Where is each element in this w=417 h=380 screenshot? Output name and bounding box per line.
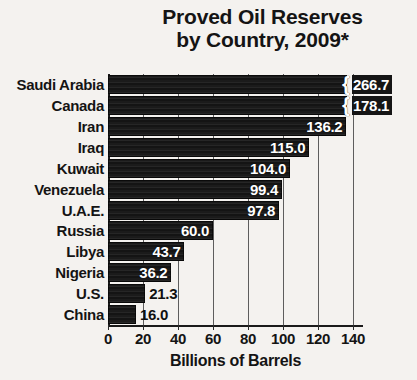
plot-area: {266.7{178.1136.2115.0104.099.497.860.04… [108,74,353,325]
bar-row: 21.3 [108,284,353,303]
category-label: U.S. [0,284,104,303]
bar-value-label: 266.7 [352,75,392,94]
bar-value-label: 104.0 [108,159,286,178]
bar-row: 43.7 [108,242,353,261]
x-tick-label: 20 [135,330,151,347]
bar-value-label: 99.4 [108,180,278,199]
bar-row: 136.2 [108,117,353,136]
bar[interactable] [108,284,145,303]
category-label: U.A.E. [0,201,104,220]
category-label: Russia [0,221,104,240]
x-axis-line [108,325,363,327]
bar-row: 97.8 [108,201,353,220]
bar-row: {178.1 [108,96,353,115]
bar[interactable] [108,75,347,94]
bar-row: 16.0 [108,305,353,324]
category-label: Libya [0,242,104,261]
bar-value-label: 115.0 [108,138,305,157]
x-tick-label: 40 [170,330,186,347]
chart-title-text: Proved Oil Reserves by Country, 2009* [162,5,362,51]
bar-value-label: 136.2 [108,117,342,136]
bar-value-label: 21.3 [149,284,177,303]
category-label: China [0,305,104,324]
bar[interactable] [108,305,136,324]
category-label: Saudi Arabia [0,75,104,94]
x-tick-label: 140 [341,330,365,347]
bar-row: 36.2 [108,263,353,282]
axis-break-icon: { [342,96,350,115]
bar-row: 104.0 [108,159,353,178]
category-label: Canada [0,96,104,115]
category-label: Kuwait [0,159,104,178]
x-tick-label: 80 [240,330,256,347]
category-label: Iran [0,117,104,136]
bar-row: {266.7 [108,75,353,94]
x-tick-label: 100 [271,330,295,347]
bar-value-label: 36.2 [108,263,167,282]
bar-value-label: 60.0 [108,221,209,240]
chart-title: Proved Oil Reserves by Country, 2009* [108,6,417,51]
bar-row: 99.4 [108,180,353,199]
category-label: Venezuela [0,180,104,199]
bar-value-label: 43.7 [108,242,180,261]
bar-value-label: 97.8 [108,201,275,220]
bar-row: 60.0 [108,221,353,240]
x-tick-label: 120 [306,330,330,347]
bar-value-label: 16.0 [140,305,168,324]
bar-row: 115.0 [108,138,353,157]
chart-container: Proved Oil Reserves by Country, 2009* {2… [0,0,417,380]
bar[interactable] [108,96,347,115]
x-tick-label: 60 [205,330,221,347]
axis-break-icon: { [342,75,350,94]
x-axis-title: Billions of Barrels [108,352,363,370]
x-tick-label: 0 [104,330,112,347]
bar-value-label: 178.1 [352,96,392,115]
category-label: Nigeria [0,263,104,282]
category-label: Iraq [0,138,104,157]
